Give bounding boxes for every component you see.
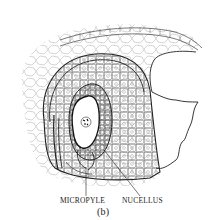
micropyle-label: MICROPYLE xyxy=(60,196,105,205)
ovule-diagram: MICROPYLE NUCELLUS (b) xyxy=(0,0,216,220)
figure-caption: (b) xyxy=(97,206,109,217)
ovule-drawing xyxy=(0,0,216,220)
nucellus-label: NUCELLUS xyxy=(122,196,163,205)
